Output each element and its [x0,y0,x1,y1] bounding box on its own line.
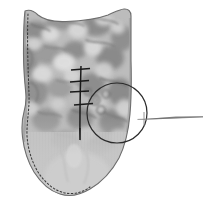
fabric-lower-area [0,118,209,223]
fabric-illustration [0,0,209,223]
fabric-panel [0,0,209,223]
cross-stitch [70,91,89,92]
figure-root: Animal-head-shaped printed fabric panel,… [0,0,209,223]
